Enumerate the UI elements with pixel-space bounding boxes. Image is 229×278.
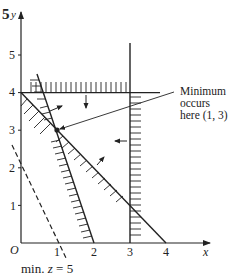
annotation-pointer: [60, 92, 174, 129]
y-tick-4: 4: [9, 85, 15, 99]
hatch-3x-plus-y-eq-6: [30, 80, 92, 238]
x-tick-1: 1: [54, 245, 60, 259]
y-tick-2: 2: [9, 161, 15, 175]
arrow-right-icon: [50, 106, 62, 111]
origin-label: O: [10, 243, 19, 257]
caption: min. z = 5: [21, 261, 73, 276]
caption-suffix: = 5: [53, 261, 73, 276]
y-top-label: 5: [2, 6, 10, 22]
line-x-plus-y-eq-4: [21, 93, 166, 243]
hatch-x-eq-3: [130, 97, 141, 235]
caption-prefix: min.: [21, 261, 48, 276]
x-tick-2: 2: [91, 245, 97, 259]
minimum-point: [54, 127, 59, 132]
y-axis-label: y: [10, 8, 16, 20]
x-axis-label: x: [202, 245, 209, 259]
y-tick-3: 3: [9, 123, 15, 137]
arrow-up-right-icon: [97, 157, 104, 165]
hatch-x-plus-y-eq-4: [21, 99, 123, 202]
y-tick-5: 5: [9, 48, 15, 62]
hatch-y-eq-4: [31, 82, 126, 93]
annotation-line3: here (1, 3): [180, 109, 228, 122]
lp-graph: 5 y 5 4 3 2 1 O 1 2 3 4 x Minimum occurs…: [0, 0, 229, 278]
objective-line-dashed: [12, 145, 66, 258]
annotation-line2: occurs: [180, 97, 211, 109]
annotation-line1: Minimum: [180, 85, 226, 97]
y-tick-1: 1: [10, 199, 16, 213]
x-tick-4: 4: [163, 245, 169, 259]
x-tick-3: 3: [127, 245, 133, 259]
